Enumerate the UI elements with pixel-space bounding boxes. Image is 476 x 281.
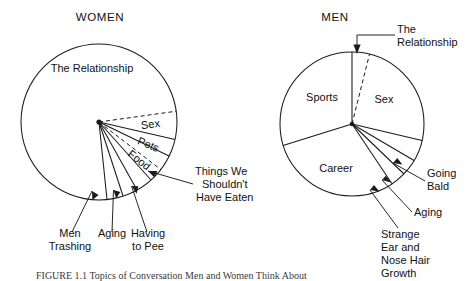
men-callout-bald-line2: Bald <box>427 180 449 192</box>
women-callout-things-line2: Shouldn't <box>202 178 248 190</box>
men-callout-aging: Aging <box>414 206 442 218</box>
figure-caption: FIGURE 1.1 Topics of Conversation Men an… <box>36 270 307 281</box>
women-arrowhead-men <box>92 191 99 200</box>
women-label-sex: Sex <box>140 117 161 132</box>
women-callout-men-line1: Men <box>59 227 80 239</box>
women-leader-aging <box>112 190 114 232</box>
women-pie-hub <box>96 119 101 124</box>
women-callout-things-line1: Things We <box>195 165 247 177</box>
men-slice-divider-strange-career <box>352 124 392 184</box>
women-callout-things-line3: Have Eaten <box>196 191 253 203</box>
men-slice-divider-bald-aging <box>352 124 414 161</box>
men-slice-divider-relationship-sex <box>352 54 370 124</box>
women-leader-pee <box>132 186 148 232</box>
women-pie-chart: WOMEN The Relationship Sex Pets <box>21 11 253 252</box>
men-leader-strange <box>370 190 398 228</box>
women-callout-aging: Aging <box>98 227 126 239</box>
men-callout-relationship-line2: Relationship <box>397 36 458 48</box>
men-label-sports: Sports <box>306 91 338 103</box>
men-label-sex: Sex <box>375 93 394 105</box>
men-callout-strange-line3: Nose Hair <box>381 254 430 266</box>
men-leader-aging <box>382 180 412 212</box>
pie-charts-figure: WOMEN The Relationship Sex Pets <box>0 0 476 281</box>
men-label-career: Career <box>319 162 353 174</box>
women-callout-pee-line1: Having <box>131 227 165 239</box>
men-callout-bald-line1: Going <box>427 167 456 179</box>
men-slice-divider-sex-bald <box>352 124 422 141</box>
men-leader-bald <box>393 163 425 181</box>
women-leader-men <box>72 191 92 232</box>
men-pie-chart: MEN Sports Sex Career Th <box>280 11 458 279</box>
women-label-pets: Pets <box>136 135 161 155</box>
men-callout-strange-line2: Ear and <box>381 241 420 253</box>
women-arrowhead-things <box>148 171 157 177</box>
men-callout-relationship-line1: The <box>397 23 416 35</box>
men-slice-divider-aging-strange <box>352 124 404 174</box>
women-label-the-relationship: The Relationship <box>51 62 134 74</box>
men-callout-strange-line1: Strange <box>381 228 420 240</box>
figure-container: WOMEN The Relationship Sex Pets <box>0 0 476 281</box>
men-pie-hub <box>350 122 355 127</box>
men-callout-strange-line4: Growth <box>381 267 416 279</box>
women-callout-men-line2: Trashing <box>49 240 91 252</box>
men-arrowhead-strange <box>370 185 379 191</box>
women-callout-pee-line2: to Pee <box>132 240 164 252</box>
women-chart-title: WOMEN <box>76 11 124 23</box>
women-label-food: Food <box>126 147 153 172</box>
men-slice-divider-career-sports <box>283 124 352 146</box>
women-slice-divider-sex-top <box>99 111 176 122</box>
men-chart-title: MEN <box>321 11 348 23</box>
